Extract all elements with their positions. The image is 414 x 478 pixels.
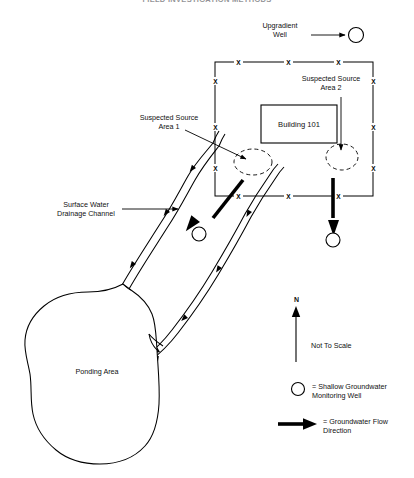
fence-x-mark: X <box>213 124 218 131</box>
legend-well-symbol <box>292 383 305 396</box>
site-diagram-canvas: X X X X X X X X X X X X <box>0 0 414 478</box>
suspected-source-area-1-ellipse <box>234 149 272 175</box>
surface-water-channel-label: Surface Water Drainage Channel <box>46 200 126 218</box>
groundwater-flow-arrows <box>181 178 339 236</box>
channel-head-east-2 <box>275 167 284 179</box>
diagram-page: FIELD INVESTIGATION METHODS X X X X <box>0 0 414 478</box>
channel-head-east <box>269 164 278 176</box>
monitoring-well-east <box>326 233 340 247</box>
fence-x-mark: X <box>213 78 218 85</box>
north-arrow <box>292 306 300 362</box>
suspected-source-area-2-ellipse <box>326 144 358 170</box>
fence-x-mark: X <box>336 193 341 200</box>
suspected-source-area-1-label: Suspected Source Area 1 <box>126 113 212 131</box>
legend-item-well-text: = Shallow Groundwater Monitoring Well <box>312 382 387 400</box>
channel-east-bank-outer <box>144 176 269 358</box>
building-101-label: Building 101 <box>261 120 337 130</box>
fence-x-mark: X <box>236 59 241 66</box>
fence-x-mark: X <box>213 165 218 172</box>
ponding-area-label: Ponding Area <box>52 367 142 376</box>
fence-x-mark: X <box>286 193 291 200</box>
north-arrowhead <box>292 306 300 317</box>
suspected-source-area-2-label: Suspected Source Area 2 <box>288 74 374 92</box>
fence-x-mark: X <box>286 59 291 66</box>
fence-x-mark: X <box>236 193 241 200</box>
legend-item-flow-text: = Groundwater Flow Direction <box>323 417 388 435</box>
fence-x-mark: X <box>371 124 376 131</box>
legend-flow-arrow-symbol <box>278 418 317 430</box>
monitoring-well-west <box>192 227 206 241</box>
north-label: N <box>288 296 305 305</box>
upgradient-well-label: Upgradient Well <box>249 21 311 39</box>
fence-x-mark: X <box>371 165 376 172</box>
scale-note-label: Not To Scale <box>311 341 352 350</box>
groundwater-flow-arrow-2 <box>328 178 339 236</box>
channel-head-west <box>213 131 219 143</box>
channel-head-west-2 <box>219 134 225 146</box>
fence-x-mark: X <box>336 59 341 66</box>
monitoring-well-upgradient <box>349 28 364 43</box>
